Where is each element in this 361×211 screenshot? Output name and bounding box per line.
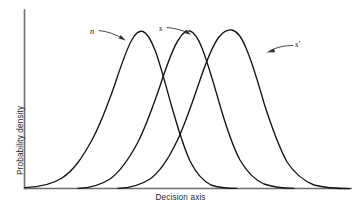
curve-label-n: n [90,26,94,36]
arrowhead-s [184,29,191,34]
x-axis-title: Decision axis [0,193,361,202]
figure-container: n s s′ Decision axis Probability density [0,0,361,211]
annotation-s-prime: s′ [267,39,301,53]
curve-s-prime [118,30,350,189]
y-axis-title: Probability density [16,15,25,175]
probability-density-plot: n s s′ [0,0,361,211]
arrowhead-n [119,35,126,41]
arrowhead-s-prime [267,49,276,53]
curve-s [78,31,294,188]
curve-label-s: s [159,23,163,33]
annotation-s: s [159,23,191,35]
curve-label-s-prime: s′ [295,39,300,49]
annotation-n: n [90,26,126,41]
